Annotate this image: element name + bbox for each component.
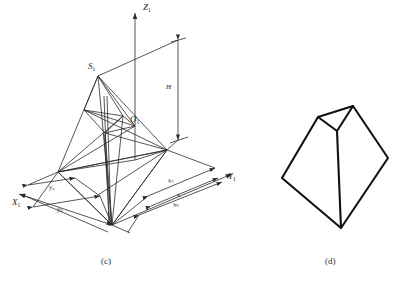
dim-label-ya: ya bbox=[48, 184, 54, 192]
ground-edge-right-far bbox=[135, 150, 167, 160]
dim-y-baseline-2 bbox=[112, 225, 130, 233]
figure-svg bbox=[0, 0, 403, 286]
x-axis-line bbox=[19, 194, 112, 225]
axis-label-z: Z1 bbox=[143, 3, 151, 12]
axis-label-y: Y1 bbox=[228, 172, 236, 181]
frame-tick-bottom bbox=[170, 137, 188, 143]
fan-right-1 bbox=[112, 150, 167, 225]
dim-yb-line bbox=[33, 196, 100, 207]
dim-label-yb: yb bbox=[56, 206, 62, 214]
dim-label-flight-height: H bbox=[166, 84, 171, 91]
panel-d-geometry bbox=[282, 106, 388, 228]
axis-label-x: X1 bbox=[12, 198, 20, 207]
ray-s1-to-inner-left bbox=[84, 76, 98, 110]
fan-right-3 bbox=[84, 110, 167, 150]
frame-bottom-edge bbox=[167, 140, 178, 150]
polyhedron-outline bbox=[282, 106, 388, 228]
frame-tick-top bbox=[171, 38, 186, 42]
polyhedron-ridge bbox=[318, 106, 353, 131]
fan-left-2 bbox=[58, 126, 135, 172]
fan-right-2 bbox=[105, 133, 167, 150]
caption-panel-c: (c) bbox=[101, 256, 111, 266]
point-label-s1: S1 bbox=[88, 62, 95, 71]
caption-panel-d: (d) bbox=[325, 256, 336, 266]
point-label-o1: O1 bbox=[130, 115, 139, 124]
frame-top-edge bbox=[98, 40, 178, 76]
panel-c-geometry bbox=[19, 13, 232, 233]
dim-x-ext-3 bbox=[167, 150, 215, 168]
apex-edge-right bbox=[112, 116, 123, 225]
figure-root: Z1 Y1 X1 S1 O1 H x1 x xb ya yb (c) (d) bbox=[0, 0, 403, 286]
dim-x-line bbox=[151, 178, 218, 206]
ray-s1-to-inner-right bbox=[98, 76, 123, 116]
dim-xb-line bbox=[139, 182, 222, 215]
dim-x1-line bbox=[148, 168, 215, 196]
polyhedron-vertical-edge bbox=[337, 131, 341, 228]
dim-y-ext-2 bbox=[75, 178, 100, 196]
